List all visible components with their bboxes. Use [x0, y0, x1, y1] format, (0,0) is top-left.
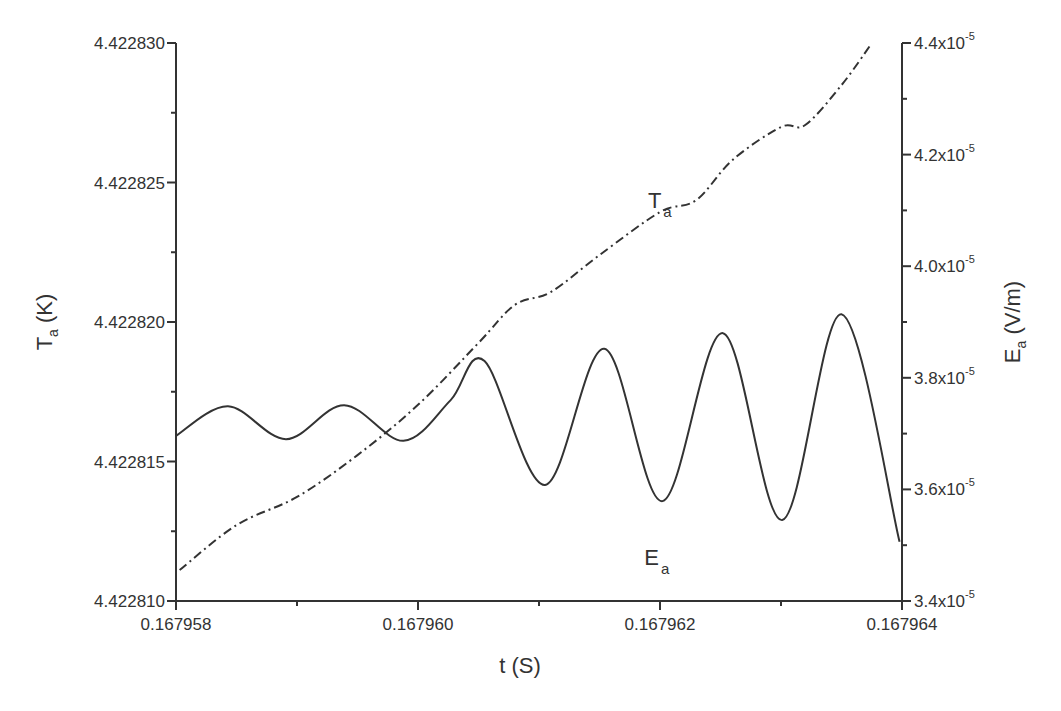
right-y-tick-label: 3.4x10-5	[914, 588, 975, 611]
curve-label-main: T	[648, 188, 661, 213]
curve-label-t-a: Ta	[648, 188, 672, 220]
left-y-axis-title-sub: a	[45, 329, 61, 337]
right-y-tick-exponent: -5	[965, 476, 975, 488]
right-y-tick-label: 3.6x10-5	[914, 476, 975, 499]
x-tick-label: 0.167962	[625, 615, 696, 634]
left-y-ticks: 4.4228104.4228154.4228204.4228254.422830	[94, 34, 176, 611]
right-y-tick-label: 3.8x10-5	[914, 365, 975, 388]
x-tick-label: 0.167964	[867, 615, 938, 634]
right-y-ticks: 3.4x10-53.6x10-53.8x10-54.0x10-54.2x10-5…	[902, 30, 975, 611]
right-y-tick-label: 4.2x10-5	[914, 142, 975, 165]
axes: 0.1679580.1679600.1679620.167964 4.42281…	[94, 30, 975, 634]
right-y-tick-mantissa: 3.6x10	[914, 480, 965, 499]
right-y-tick-exponent: -5	[965, 30, 975, 42]
left-y-axis-title: Ta (K)	[32, 294, 61, 351]
left-y-axis-title-main: T	[32, 337, 57, 350]
right-y-axis-title: Ea (V/m)	[1000, 281, 1029, 363]
right-y-tick-mantissa: 4.4x10	[914, 34, 965, 53]
x-axis-title: t (S)	[499, 653, 541, 678]
left-y-tick-label: 4.422820	[94, 313, 165, 332]
left-y-tick-label: 4.422825	[94, 174, 165, 193]
right-y-axis-title-main: E	[1000, 349, 1025, 364]
left-y-tick-label: 4.422810	[94, 592, 165, 611]
curve-label-sub: a	[663, 203, 672, 220]
left-y-tick-label: 4.422815	[94, 453, 165, 472]
right-y-tick-exponent: -5	[965, 365, 975, 377]
right-y-tick-mantissa: 3.4x10	[914, 592, 965, 611]
curves	[176, 45, 900, 570]
curve-label-e-a: Ea	[644, 545, 670, 577]
right-y-tick-label: 4.4x10-5	[914, 30, 975, 53]
curve-label-main: E	[644, 545, 659, 570]
left-y-tick-label: 4.422830	[94, 34, 165, 53]
annotations: TaEa	[644, 188, 672, 577]
right-y-axis-title-unit: (V/m)	[1000, 281, 1025, 341]
right-y-tick-mantissa: 3.8x10	[914, 369, 965, 388]
curve-label-sub: a	[661, 560, 670, 577]
right-y-tick-mantissa: 4.0x10	[914, 257, 965, 276]
right-y-tick-label: 4.0x10-5	[914, 253, 975, 276]
right-y-tick-exponent: -5	[965, 253, 975, 265]
right-y-tick-exponent: -5	[965, 588, 975, 600]
right-y-tick-mantissa: 4.2x10	[914, 146, 965, 165]
x-ticks: 0.1679580.1679600.1679620.167964	[141, 601, 938, 634]
x-tick-label: 0.167960	[383, 615, 454, 634]
right-y-axis-title-sub: a	[1013, 341, 1029, 349]
right-y-tick-exponent: -5	[965, 142, 975, 154]
chart: 0.1679580.1679600.1679620.167964 4.42281…	[0, 0, 1061, 711]
left-y-axis-title-unit: (K)	[32, 294, 57, 329]
x-tick-label: 0.167958	[141, 615, 212, 634]
series-line-e-a	[176, 314, 900, 542]
